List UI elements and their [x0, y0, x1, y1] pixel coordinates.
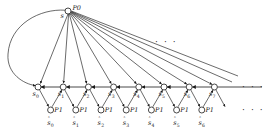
aux-ellipsis: · · ·	[242, 106, 264, 115]
chain-node	[211, 84, 217, 90]
chain-label-s4: s4	[133, 91, 139, 98]
chain-node	[85, 84, 91, 90]
chain-label-s1: s1	[58, 91, 64, 98]
fan-edges-from-root	[40, 11, 238, 84]
aux-label-s4: ˆs4	[148, 120, 154, 127]
chain-label-s0: s0	[33, 91, 39, 98]
root-process-label: P0	[73, 5, 82, 12]
aux-label-s6: ˆs6	[198, 120, 204, 127]
root-state-label: s	[61, 13, 64, 20]
aux-label-s5: ˆs5	[173, 120, 179, 127]
root-node	[65, 8, 71, 14]
aux-label-s2: ˆs2	[98, 120, 104, 127]
aux-process-label-2: P1	[105, 107, 114, 114]
aux-node	[98, 107, 104, 113]
aux-label-s3: ˆs3	[123, 120, 129, 127]
aux-node	[48, 107, 54, 113]
aux-process-label-0: P1	[54, 107, 63, 114]
chain-node	[186, 84, 192, 90]
aux-node	[123, 107, 129, 113]
aux-node	[174, 107, 180, 113]
chain-label-s6: s6	[184, 91, 190, 98]
aux-node	[199, 107, 205, 113]
aux-process-label-4: P1	[155, 107, 164, 114]
aux-process-label-3: P1	[130, 107, 139, 114]
chain-label-s7: s7	[209, 91, 215, 98]
chain-ellipsis: · · ·	[242, 83, 264, 92]
aux-label-s0: ˆs0	[47, 120, 53, 127]
aux-node	[148, 107, 154, 113]
aux-node	[73, 107, 79, 113]
chain-label-s2: s2	[83, 91, 89, 98]
aux-process-label-1: P1	[80, 107, 89, 114]
self-loop-edge-root-to-first-state	[8, 10, 66, 86]
diagram-vector-layer	[0, 0, 275, 138]
fan-ellipsis: · · ·	[155, 38, 177, 47]
aux-process-label-5: P1	[180, 107, 189, 114]
chain-label-s5: s5	[159, 91, 165, 98]
chain-node	[60, 84, 66, 90]
chain-node	[111, 84, 117, 90]
chain-label-s3: s3	[108, 91, 114, 98]
aux-label-s1: ˆs1	[72, 120, 78, 127]
aux-process-label-6: P1	[206, 107, 215, 114]
diagram-canvas: P0 s s0 s1 s2 s3 s4 s5 s6 s7 P1 P1 P1 P1…	[0, 0, 275, 138]
